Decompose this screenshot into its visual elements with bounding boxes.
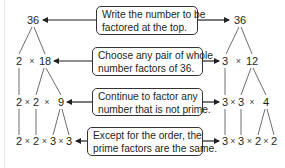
times-sign: × xyxy=(42,136,47,146)
times-sign: × xyxy=(44,97,49,107)
right-row4-factor: 2 xyxy=(255,135,261,147)
times-sign: × xyxy=(25,97,30,107)
right-row3-factor: 3 xyxy=(238,96,244,108)
callout-write-number: Write the number to be factored at the t… xyxy=(96,6,198,35)
right-row2-factor: 3 xyxy=(222,55,228,67)
right-tree-branches xyxy=(225,27,274,135)
left-row4-factor: 3 xyxy=(66,135,72,147)
left-row3-factor: 2 xyxy=(33,96,39,108)
right-root: 36 xyxy=(234,14,246,26)
callout-same-prime-factors: Except for the order, the prime factors … xyxy=(87,127,203,156)
right-row3-factor: 3 xyxy=(222,96,228,108)
callout-line: number factors of 36. xyxy=(98,63,197,76)
callout-line: Write the number to be xyxy=(102,9,192,22)
times-sign: × xyxy=(230,97,235,107)
callout-line: Continue to factor any xyxy=(98,91,197,104)
callout-line: Choose any pair of whole xyxy=(98,50,197,63)
times-sign: × xyxy=(249,97,254,107)
callout-line: factored at the top. xyxy=(102,22,192,35)
callout-arrows xyxy=(43,20,229,141)
left-row4-factor: 2 xyxy=(33,135,39,147)
times-sign: × xyxy=(236,56,241,66)
left-row3-factor: 9 xyxy=(58,96,64,108)
left-tree-branches xyxy=(19,27,69,135)
times-sign: × xyxy=(230,136,235,146)
left-row2-factor: 18 xyxy=(39,55,51,67)
left-root: 36 xyxy=(27,14,39,26)
right-row2-factor: 12 xyxy=(246,55,258,67)
times-sign: × xyxy=(25,136,30,146)
times-sign: × xyxy=(247,136,252,146)
right-row4-factor: 3 xyxy=(238,135,244,147)
callout-choose-factors: Choose any pair of whole number factors … xyxy=(92,47,203,76)
right-row3-factor: 4 xyxy=(263,96,269,108)
callout-line: prime factors are the same. xyxy=(93,143,197,156)
left-row4-factor: 3 xyxy=(50,135,56,147)
right-row4-factor: 3 xyxy=(222,135,228,147)
right-row4-factor: 2 xyxy=(271,135,277,147)
left-row4-factor: 2 xyxy=(16,135,22,147)
callout-line: Except for the order, the xyxy=(93,130,197,143)
times-sign: × xyxy=(58,136,63,146)
left-row3-factor: 2 xyxy=(16,96,22,108)
left-row2-factor: 2 xyxy=(16,55,22,67)
times-sign: × xyxy=(263,136,268,146)
callout-line: number that is not prime. xyxy=(98,104,197,117)
callout-continue-factoring: Continue to factor any number that is no… xyxy=(92,88,203,116)
times-sign: × xyxy=(29,56,34,66)
